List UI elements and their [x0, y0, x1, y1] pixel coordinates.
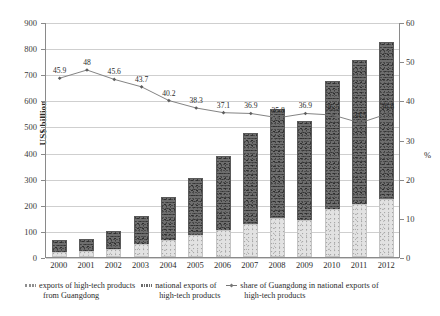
x-tick-2003: 2003	[126, 261, 156, 270]
y2-tickmark	[400, 258, 404, 259]
page-artifact-top	[300, 0, 440, 8]
bar-guangdong-2008	[270, 218, 285, 257]
y2-tick-0: 0	[406, 254, 432, 263]
y-tick-800: 800	[3, 45, 37, 54]
point-label-2003: 43.7	[130, 76, 154, 84]
legend-item-1[interactable]: national exports ofhigh-tech products	[141, 281, 220, 301]
bar-group-2003	[129, 22, 155, 257]
x-tick-2000: 2000	[44, 261, 74, 270]
y2-tick-40: 40	[406, 97, 432, 106]
legend-label-line2-1: high-tech products	[155, 291, 220, 301]
y2-tickmark	[400, 219, 404, 220]
point-label-2006: 37.1	[212, 102, 236, 110]
bar-guangdong-2000	[52, 252, 67, 257]
point-label-2011: 34.5	[348, 112, 372, 120]
bar-guangdong-2004	[161, 240, 176, 257]
y-tickmark	[41, 258, 45, 259]
bar-group-2009	[292, 22, 318, 257]
point-label-2009: 36.9	[293, 102, 317, 110]
y-tick-0: 0	[3, 254, 37, 263]
bar-guangdong-2003	[134, 244, 149, 257]
bar-group-2005	[183, 22, 209, 257]
y2-tickmark	[400, 62, 404, 63]
x-tick-2001: 2001	[71, 261, 101, 270]
bar-guangdong-2012	[379, 199, 394, 257]
y-tick-100: 100	[3, 228, 37, 237]
y-tick-600: 600	[3, 97, 37, 106]
legend-label-2: share of Guangdong in national exports o…	[240, 281, 378, 301]
bar-guangdong-2010	[325, 209, 340, 257]
bar-guangdong-2007	[243, 224, 258, 257]
y2-tick-50: 50	[406, 58, 432, 67]
bar-light-swatch-icon	[25, 284, 36, 287]
bar-group-2000	[47, 22, 73, 257]
x-tick-2007: 2007	[235, 261, 265, 270]
line-swatch-icon	[226, 284, 237, 287]
legend-label-line2-0: from Guangdong	[39, 291, 135, 301]
point-label-2004: 40.2	[157, 90, 181, 98]
legend-label-0: exports of high-tech productsfrom Guangd…	[39, 281, 135, 301]
point-label-2012: 36.8	[375, 103, 399, 111]
gridline	[46, 258, 399, 259]
bar-group-2007	[238, 22, 264, 257]
point-label-2000: 45.9	[48, 67, 72, 75]
legend-item-2[interactable]: share of Guangdong in national exports o…	[226, 281, 378, 301]
point-label-2005: 38.3	[184, 97, 208, 105]
legend-item-0[interactable]: exports of high-tech productsfrom Guangd…	[25, 281, 135, 301]
y-tick-900: 900	[3, 19, 37, 28]
bar-group-2006	[211, 22, 237, 257]
y2-axis-label: %	[424, 150, 431, 160]
plot-area: 45.94845.643.740.238.337.136.935.836.936…	[45, 23, 400, 258]
y-tick-200: 200	[3, 202, 37, 211]
x-tick-2002: 2002	[98, 261, 128, 270]
point-label-2002: 45.6	[102, 68, 126, 76]
bar-guangdong-2002	[106, 249, 121, 257]
y2-tick-10: 10	[406, 215, 432, 224]
chart-legend: exports of high-tech productsfrom Guangd…	[25, 281, 425, 301]
x-tick-2006: 2006	[208, 261, 238, 270]
point-label-2001: 48	[75, 59, 99, 67]
bar-group-2010	[320, 22, 346, 257]
x-tick-2008: 2008	[262, 261, 292, 270]
y2-tickmark	[400, 101, 404, 102]
x-tick-2011: 2011	[344, 261, 374, 270]
point-label-2008: 35.8	[266, 107, 290, 115]
legend-label-1: national exports ofhigh-tech products	[155, 281, 220, 301]
x-tick-2009: 2009	[289, 261, 319, 270]
y2-tickmark	[400, 141, 404, 142]
x-tick-2012: 2012	[371, 261, 401, 270]
y2-tick-30: 30	[406, 137, 432, 146]
bar-group-2008	[265, 22, 291, 257]
bar-group-2011	[347, 22, 373, 257]
legend-label-line2-2: high-tech products	[240, 291, 378, 301]
y2-tick-60: 60	[406, 19, 432, 28]
x-tick-2010: 2010	[317, 261, 347, 270]
x-tick-2005: 2005	[180, 261, 210, 270]
y2-tickmark	[400, 180, 404, 181]
y2-tick-20: 20	[406, 176, 432, 185]
x-tick-2004: 2004	[153, 261, 183, 270]
y-tick-500: 500	[3, 123, 37, 132]
bar-guangdong-2001	[79, 251, 94, 257]
bar-guangdong-2006	[216, 230, 231, 257]
bar-guangdong-2011	[352, 204, 367, 257]
bar-guangdong-2005	[188, 235, 203, 257]
bar-guangdong-2009	[297, 220, 312, 257]
point-label-2010: 36.5	[321, 104, 345, 112]
y-tick-400: 400	[3, 150, 37, 159]
y-tick-700: 700	[3, 71, 37, 80]
point-label-2007: 36.9	[239, 102, 263, 110]
bar-dark-swatch-icon	[141, 284, 152, 287]
y2-tickmark	[400, 23, 404, 24]
y-tick-300: 300	[3, 176, 37, 185]
bar-group-2004	[156, 22, 182, 257]
bar-group-2012	[374, 22, 400, 257]
bar-group-2002	[101, 22, 127, 257]
chart-figure: US$ billion % 01002003004005006007008009…	[0, 0, 440, 316]
